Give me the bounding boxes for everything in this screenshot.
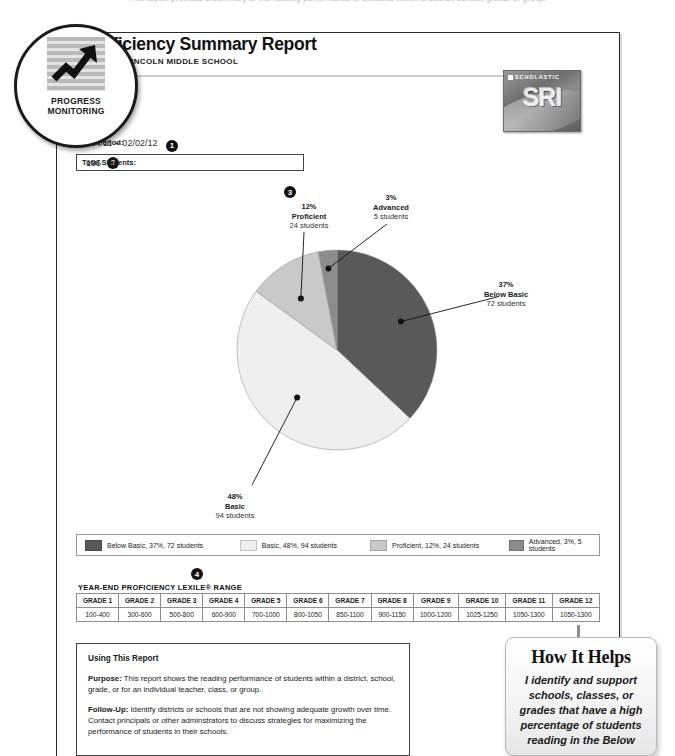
legend-label-basic: Basic, 48%, 94 students [262, 542, 337, 549]
callout-marker-3: 3 [284, 186, 296, 198]
lexile-range-cell: 1050-1300 [506, 608, 553, 622]
badge-line-2: MONITORING [47, 106, 104, 116]
lexile-grade-header: GRADE 2 [119, 594, 161, 608]
lexile-range-cell: 1050-1300 [552, 608, 599, 622]
leader-dot-proficient [298, 295, 304, 301]
progress-monitoring-badge: PROGRESS MONITORING [14, 24, 138, 148]
proficiency-pie-chart: 3 12% Proficient 24 students 3% Advanced… [56, 180, 620, 530]
lexile-range-cell: 1025-1250 [458, 608, 505, 622]
upward-trend-arrow-icon [47, 37, 105, 91]
header-divider [84, 75, 518, 77]
followup-paragraph: Follow-Up: Identify districts or schools… [88, 704, 398, 737]
lexile-grade-header: GRADE 3 [161, 594, 203, 608]
legend-swatch-proficient [370, 540, 387, 551]
legend-label-proficient: Proficient, 12%, 24 students [392, 542, 479, 549]
pie-label-below-basic: 37% Below Basic 72 students [456, 280, 556, 309]
pie-label-basic: 48% Basic 94 students [190, 492, 280, 521]
using-this-report-box: Using This Report Purpose: This report s… [76, 643, 410, 756]
lexile-range-cell: 100-400 [77, 608, 119, 622]
lexile-table-title: YEAR-END PROFICIENCY LEXILE® RANGE [78, 583, 242, 592]
leader-dot-below-basic [398, 319, 404, 325]
callout-marker-1: 1 [166, 140, 178, 152]
pie-label-below-basic-percent: 37% [456, 280, 556, 290]
total-students-field: Total Students: 195 2 [76, 154, 304, 171]
callout-marker-4: 4 [191, 568, 203, 580]
pie-label-advanced-name: Advanced [351, 203, 431, 213]
legend-item-below-basic: Below Basic, 37%, 72 students [85, 540, 216, 551]
using-this-report-heading: Using This Report [88, 653, 398, 664]
lexile-range-cell: 600-900 [203, 608, 245, 622]
legend-swatch-below-basic [85, 540, 102, 551]
leader-dot-advanced [325, 265, 331, 271]
lexile-range-cell: 1000-1200 [413, 608, 458, 622]
total-students-label: Total Students: [82, 158, 136, 168]
purpose-text: This report shows the reading performanc… [88, 674, 395, 694]
pie-label-proficient: 12% Proficient 24 students [269, 202, 349, 231]
legend-swatch-basic [240, 540, 257, 551]
page-title: Proficiency Summary Report [84, 34, 384, 55]
legend-item-proficient: Proficient, 12%, 24 students [370, 540, 501, 551]
lexile-grade-header: GRADE 12 [552, 594, 599, 608]
chart-legend: Below Basic, 37%, 72 students Basic, 48%… [76, 534, 600, 556]
lexile-grade-header: GRADE 7 [329, 594, 371, 608]
sri-wordmark: SRI [504, 80, 580, 114]
lexile-range-cell: 800-1050 [287, 608, 329, 622]
legend-item-basic: Basic, 48%, 94 students [240, 540, 362, 551]
badge-text: PROGRESS MONITORING [47, 96, 104, 116]
lexile-grade-header: GRADE 1 [77, 594, 119, 608]
purpose-label: Purpose: [88, 674, 122, 683]
lexile-grade-header: GRADE 6 [287, 594, 329, 608]
pie-label-below-basic-name: Below Basic [456, 290, 556, 300]
lexile-grade-header: GRADE 5 [245, 594, 287, 608]
lexile-range-cell: 900-1150 [371, 608, 413, 622]
lexile-range-cell: 500-800 [161, 608, 203, 622]
badge-line-1: PROGRESS [47, 96, 104, 106]
pie-label-proficient-count: 24 students [269, 221, 349, 231]
lexile-range-table: GRADE 1GRADE 2GRADE 3GRADE 4GRADE 5GRADE… [76, 593, 600, 622]
pie-label-basic-name: Basic [190, 502, 280, 512]
followup-text: Identify districts or schools that are n… [88, 705, 391, 736]
clipped-top-text: This report provides a summary of the re… [0, 0, 675, 4]
legend-label-advanced: Advanced, 3%, 5 students [529, 538, 599, 552]
pie-label-advanced: 3% Advanced 5 students [351, 193, 431, 222]
lexile-grade-header: GRADE 9 [413, 594, 458, 608]
lexile-range-cell: 700-1000 [245, 608, 287, 622]
lexile-grade-header: GRADE 10 [458, 594, 505, 608]
how-it-helps-heading: How It Helps [516, 647, 646, 668]
legend-swatch-advanced [509, 540, 524, 551]
how-it-helps-body: I identify and support schools, classes,… [516, 673, 646, 748]
pie-label-basic-count: 94 students [190, 511, 280, 521]
leader-dot-basic [294, 394, 300, 400]
lexile-table-header-row: GRADE 1GRADE 2GRADE 3GRADE 4GRADE 5GRADE… [77, 594, 600, 608]
lexile-range-cell: 850-1100 [329, 608, 371, 622]
pie-label-below-basic-count: 72 students [456, 299, 556, 309]
lexile-range-cell: 300-600 [119, 608, 161, 622]
lexile-table-value-row: 100-400300-600500-800600-900700-1000800-… [77, 608, 600, 622]
legend-item-advanced: Advanced, 3%, 5 students [509, 538, 599, 552]
purpose-paragraph: Purpose: This report shows the reading p… [88, 673, 398, 695]
lexile-grade-header: GRADE 4 [203, 594, 245, 608]
pie-svg [56, 180, 620, 530]
lexile-grade-header: GRADE 11 [506, 594, 553, 608]
pie-label-advanced-percent: 3% [351, 193, 431, 203]
pie-label-proficient-name: Proficient [269, 212, 349, 222]
pie-label-basic-percent: 48% [190, 492, 280, 502]
lexile-grade-header: GRADE 8 [371, 594, 413, 608]
how-it-helps-box: How It Helps I identify and support scho… [505, 637, 657, 756]
sri-logo: SCHOLASTIC SRI [503, 70, 581, 132]
pie-label-advanced-count: 5 students [351, 212, 431, 222]
legend-label-below-basic: Below Basic, 37%, 72 students [107, 542, 203, 549]
pie-label-proficient-percent: 12% [269, 202, 349, 212]
followup-label: Follow-Up: [88, 705, 128, 714]
